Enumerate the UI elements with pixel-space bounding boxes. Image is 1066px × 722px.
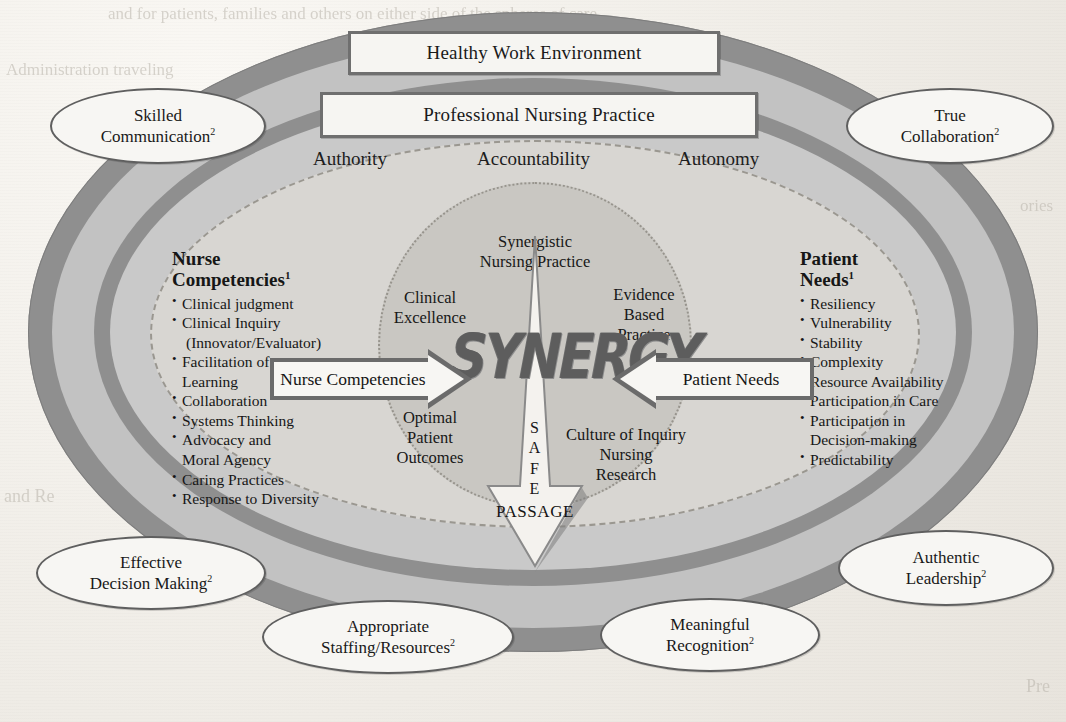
- ellipse-line2: Decision Making: [90, 573, 208, 592]
- patient-needs-heading-line2: Needs: [800, 270, 849, 291]
- ellipse-line1: Effective: [120, 553, 182, 572]
- ellipse-skilled-communication: SkilledCommunication2: [50, 88, 266, 164]
- ellipse-footnote: 2: [210, 126, 215, 137]
- list-item: Resiliency: [800, 294, 1015, 314]
- list-item: Vulnerability: [800, 313, 1015, 333]
- ellipse-footnote: 2: [981, 568, 986, 579]
- list-item: Advocacy and Moral Agency: [172, 430, 372, 469]
- list-item: Stability: [800, 333, 1015, 353]
- ellipse-line1: Authentic: [912, 548, 979, 567]
- ellipse-effective-decision-making: EffectiveDecision Making2: [36, 536, 266, 610]
- passage-label: PASSAGE: [473, 502, 597, 522]
- list-item: Participation in Decision-making: [800, 411, 1015, 450]
- label-optimal-patient-outcomes: Optimal Patient Outcomes: [382, 408, 478, 467]
- synergy-diagram: S A F E PASSAGE SYNERGY Synergistic Nurs…: [0, 0, 1066, 722]
- list-item: Clinical Inquiry: [172, 313, 372, 333]
- ellipse-footnote: 2: [994, 126, 999, 137]
- safe-letters: S A F E: [505, 418, 565, 500]
- list-item: Resource Availability: [800, 372, 1015, 392]
- ellipse-true-collaboration: TrueCollaboration2: [846, 88, 1054, 164]
- list-item: Response to Diversity: [172, 489, 372, 509]
- nurse-competencies-list: Clinical judgment Clinical Inquiry (Inno…: [172, 294, 372, 509]
- label-autonomy: Autonomy: [678, 148, 759, 170]
- list-item: Complexity: [800, 352, 1015, 372]
- ellipse-line2: Leadership: [906, 568, 982, 587]
- list-item: Caring Practices: [172, 470, 372, 490]
- ellipse-meaningful-recognition: MeaningfulRecognition2: [600, 598, 820, 672]
- ellipse-line1: Skilled: [134, 106, 182, 125]
- healthy-work-environment-box: Healthy Work Environment: [348, 31, 720, 75]
- patient-needs-heading-line1: Patient: [800, 248, 858, 269]
- ellipse-appropriate-staffing-resources: AppropriateStaffing/Resources2: [262, 600, 514, 674]
- ellipse-line1: True: [934, 106, 966, 125]
- patient-needs-arrow: Patient Needs: [610, 358, 814, 400]
- ellipse-authentic-leadership: AuthenticLeadership2: [838, 530, 1054, 606]
- ellipse-footnote: 2: [207, 573, 212, 584]
- label-accountability: Accountability: [477, 148, 590, 170]
- ellipse-footnote: 2: [450, 637, 455, 648]
- patient-needs-footnote: 1: [849, 269, 855, 281]
- patient-needs-arrow-label: Patient Needs: [652, 358, 814, 400]
- label-authority: Authority: [313, 148, 387, 170]
- nurse-competencies-arrow: Nurse Competencies: [270, 358, 470, 400]
- ellipse-line1: Appropriate: [347, 617, 429, 636]
- arrowhead-right-fill-icon: [428, 355, 464, 403]
- list-item: Participation in Care: [800, 391, 1015, 411]
- ellipse-line2: Staffing/Resources: [321, 637, 450, 656]
- ellipse-line2: Collaboration: [901, 126, 994, 145]
- professional-nursing-practice-box: Professional Nursing Practice: [320, 92, 758, 138]
- list-item: Systems Thinking: [172, 411, 372, 431]
- nurse-competencies-footnote: 1: [285, 269, 291, 281]
- patient-needs-list: Resiliency Vulnerability Stability Compl…: [800, 294, 1015, 470]
- list-item: (Innovator/Evaluator): [172, 333, 372, 353]
- ellipse-line1: Meaningful: [670, 615, 749, 634]
- list-item: Predictability: [800, 450, 1015, 470]
- nurse-competencies-heading: Nurse Competencies1: [172, 248, 372, 291]
- list-item: Clinical judgment: [172, 294, 372, 314]
- arrowhead-left-fill-icon: [620, 355, 656, 403]
- patient-needs-heading: Patient Needs1: [800, 248, 1015, 291]
- nurse-competencies-arrow-label: Nurse Competencies: [270, 358, 432, 400]
- ellipse-footnote: 2: [749, 635, 754, 646]
- ellipse-line2: Recognition: [666, 635, 749, 654]
- nurse-competencies-heading-line2: Competencies: [172, 270, 285, 291]
- ellipse-line2: Communication: [101, 126, 211, 145]
- patient-needs-block: Patient Needs1 Resiliency Vulnerability …: [800, 248, 1015, 470]
- nurse-competencies-heading-line1: Nurse: [172, 248, 221, 269]
